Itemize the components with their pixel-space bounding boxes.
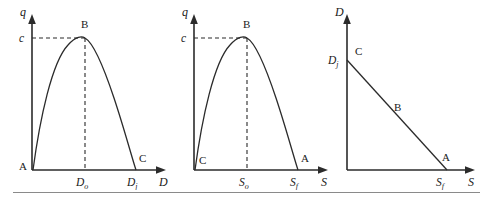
point-label-c: C: [199, 154, 206, 166]
x-tick-label-sf: Sf: [436, 176, 446, 190]
data-line-density-speed: [347, 60, 447, 170]
point-label-a: A: [19, 160, 27, 172]
point-label-c: C: [355, 45, 362, 57]
point-label-c: C: [139, 152, 146, 164]
y-axis-title: D: [334, 5, 344, 19]
bottom-divider-rule: [13, 192, 480, 193]
y-axis-arrow-icon: [190, 14, 198, 24]
y-tick-label-dj: Dj: [327, 54, 339, 69]
point-label-a: A: [442, 151, 450, 163]
figure-container: A B C q D c Do Dj C B A q S c So Sf: [0, 0, 493, 201]
x-tick-label-dj: Dj: [126, 176, 138, 190]
point-label-b: B: [81, 18, 88, 30]
point-label-b: B: [394, 101, 401, 113]
point-label-a: A: [301, 152, 309, 164]
x-tick-label-sf: Sf: [290, 176, 300, 190]
x-axis-title: S: [468, 175, 474, 189]
point-label-b: B: [243, 18, 250, 30]
y-axis-arrow-icon: [343, 14, 351, 24]
y-axis-title: q: [182, 5, 188, 19]
y-axis-title: q: [20, 5, 26, 19]
chart-panel-flow-vs-density: A B C q D c Do Dj: [0, 0, 175, 190]
x-axis-arrow-icon: [465, 166, 475, 174]
y-tick-label-c: c: [181, 32, 186, 44]
chart-panel-flow-vs-speed: C B A q S c So Sf: [162, 0, 337, 190]
y-axis-arrow-icon: [28, 14, 36, 24]
x-tick-label-do: Do: [75, 176, 88, 190]
chart-panel-density-vs-speed: C B A D S Dj Sf: [322, 0, 493, 190]
x-tick-label-so: So: [239, 176, 249, 190]
y-tick-label-c: c: [19, 32, 24, 44]
